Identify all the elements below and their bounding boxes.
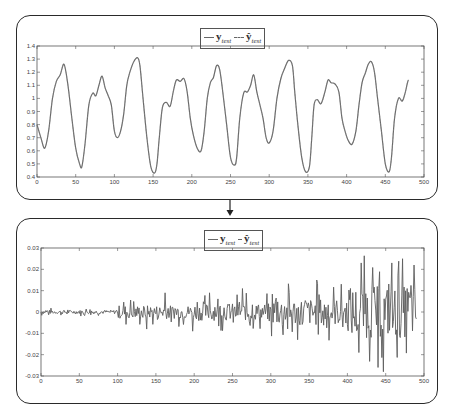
y-tick-label: -0.03 [25,373,39,379]
x-tick-label: 50 [72,179,79,185]
y-tick-label: -0.02 [25,352,39,358]
x-tick-label: 400 [342,378,353,384]
x-tick-label: 450 [381,378,392,384]
x-tick-label: 250 [227,378,238,384]
y-tick-label: 0.7 [27,135,36,141]
x-tick-label: 100 [109,179,120,185]
top-line-chart: 0501001502002503003504004505000.40.50.60… [0,0,454,200]
down-arrow-icon [226,200,234,216]
x-tick-label: 200 [189,378,200,384]
residual-line [41,256,416,372]
y-tick-label: 0.03 [27,245,39,251]
y-tick-label: 1.2 [27,69,36,75]
y-tick-label: -0.01 [25,330,39,336]
x-tick-label: 450 [380,179,391,185]
x-tick-label: 500 [419,179,430,185]
y-tick-label: 0.5 [27,161,36,167]
y-tick-label: 0.4 [27,174,36,180]
x-tick-label: 300 [266,378,277,384]
bottom-residual-chart: 050100150200250300350400450500-0.03-0.02… [0,200,454,409]
y-tick-label: 1.1 [27,82,36,88]
x-tick-label: 100 [113,378,124,384]
y-tick-label: 0.01 [27,288,39,294]
x-tick-label: 400 [342,179,353,185]
x-tick-label: 350 [303,179,314,185]
x-tick-label: 150 [151,378,162,384]
y-hat-test-line [37,58,409,173]
x-tick-label: 500 [419,378,430,384]
x-tick-label: 0 [35,179,39,185]
x-tick-label: 200 [187,179,198,185]
y-tick-label: 0.9 [27,109,36,115]
y-tick-label: 0.6 [27,148,36,154]
x-tick-label: 0 [39,378,43,384]
x-tick-label: 350 [304,378,315,384]
y-tick-label: 0.02 [27,266,39,272]
x-tick-label: 50 [76,378,83,384]
y-tick-label: 0.8 [27,122,36,128]
x-tick-label: 250 [225,179,236,185]
x-tick-label: 150 [148,179,159,185]
y-tick-label: 0 [36,309,40,315]
x-tick-label: 300 [264,179,275,185]
y-tick-label: 1.3 [27,56,36,62]
y-tick-label: 1 [32,95,36,101]
y-tick-label: 1.4 [27,43,36,49]
y-test-line [37,58,409,173]
